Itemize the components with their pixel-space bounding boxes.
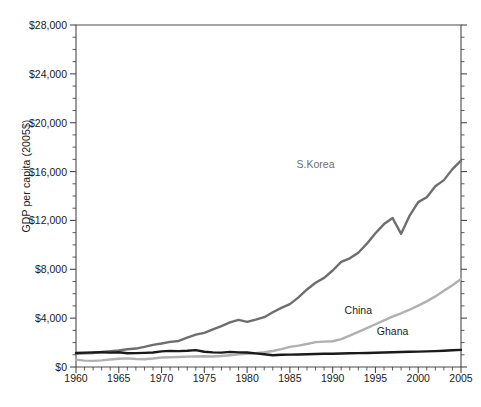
series-label-ghana: Ghana: [377, 325, 409, 337]
x-tick-label: 2000: [407, 372, 430, 384]
x-tick-label: 2005: [449, 372, 472, 384]
x-tick-label: 1970: [150, 372, 173, 384]
x-tick-label: 1965: [107, 372, 130, 384]
x-tick-label: 1980: [235, 372, 258, 384]
x-tick-label: 1995: [364, 372, 387, 384]
x-tick-label: 1960: [64, 372, 87, 384]
x-axis-tick-labels: 1960196519701975198019851990199520002005: [0, 0, 481, 407]
series-label-skorea: S.Korea: [297, 158, 335, 170]
x-tick-label: 1975: [193, 372, 216, 384]
gdp-per-capita-line-chart: GDP per capita (2005$) $0$4,000$8,000$12…: [0, 0, 481, 407]
x-tick-label: 1985: [278, 372, 301, 384]
x-tick-label: 1990: [321, 372, 344, 384]
series-label-china: China: [345, 304, 372, 316]
